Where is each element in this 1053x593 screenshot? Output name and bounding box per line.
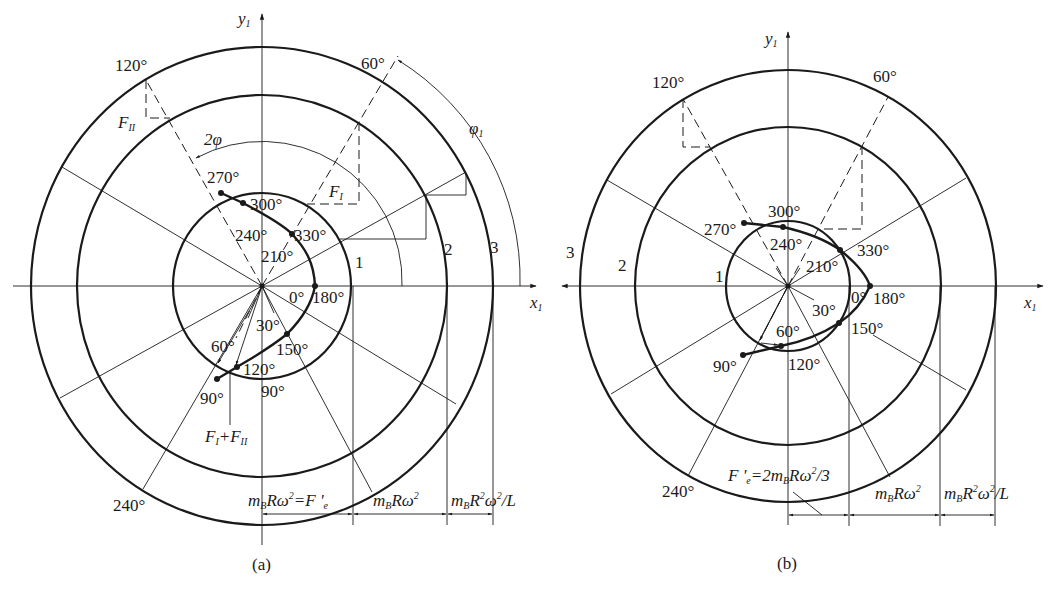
curve-label-300-a: 300° bbox=[250, 195, 282, 214]
radial-330-outer-b bbox=[873, 335, 966, 390]
curve-label-180-b: 180° bbox=[873, 289, 905, 308]
angle-label-240-b: 240° bbox=[662, 482, 694, 501]
curve-label-0-b: 0° bbox=[851, 288, 866, 307]
curve-label-150-a: 150° bbox=[276, 340, 308, 359]
x-axis-label-b: x1 bbox=[1023, 293, 1037, 313]
x-axis-label-a: x1 bbox=[529, 293, 543, 313]
construction-30-outer bbox=[426, 173, 466, 195]
curve-label-270-a: 270° bbox=[207, 168, 239, 187]
caption-b: (b) bbox=[777, 554, 797, 573]
curve-label-330-a: 330° bbox=[294, 226, 326, 245]
radial-150-b bbox=[607, 180, 788, 286]
phi1-label: φ1 bbox=[469, 119, 483, 139]
angle-label-60-b: 60° bbox=[873, 67, 897, 86]
two-phi-arc bbox=[196, 141, 402, 286]
angle-label-60-a: 60° bbox=[361, 54, 385, 73]
curve-label-300-b: 300° bbox=[768, 202, 800, 221]
dim-label-b-2: mBRω2 bbox=[875, 483, 921, 504]
radial-210-b bbox=[611, 286, 788, 394]
radial-240-a bbox=[143, 286, 262, 489]
figure-a: y1 x1 120° 60° 240° 1 2 3 FII FI FI+FII … bbox=[13, 9, 543, 574]
y-axis-label-a: y1 bbox=[236, 9, 251, 29]
F-II-label: FII bbox=[117, 113, 136, 133]
two-phi-label: 2φ bbox=[204, 130, 222, 149]
curve-label-30-a: 30° bbox=[256, 316, 280, 335]
curve-label-270-b: 270° bbox=[704, 220, 736, 239]
curve-label-30-b: 30° bbox=[812, 301, 836, 320]
y-axis-label-b: y1 bbox=[763, 29, 778, 49]
ring-label-2-b: 2 bbox=[618, 256, 627, 275]
ring-label-1-a: 1 bbox=[355, 253, 364, 272]
F-I-label: FI bbox=[328, 182, 343, 202]
dim-label-a-3: mBR2ω2/L bbox=[451, 490, 516, 511]
angle-label-120-b: 120° bbox=[652, 73, 684, 92]
caption-a: (a) bbox=[252, 555, 271, 574]
curve-label-210-b: 210° bbox=[806, 257, 838, 276]
figure-b: y1 x1 120° 60° 240° 1 2 3 270° 300° 240°… bbox=[562, 29, 1043, 573]
curve-label-90-right-a: 90° bbox=[261, 382, 285, 401]
curve-label-0-a: 0° bbox=[289, 288, 304, 307]
curve-label-240-a: 240° bbox=[235, 226, 267, 245]
curve-label-90-b: 90° bbox=[713, 357, 737, 376]
dim-leader-b bbox=[793, 492, 822, 515]
phi1-arc bbox=[398, 60, 520, 286]
curve-label-60-a: 60° bbox=[211, 337, 235, 356]
curve-label-330-b: 330° bbox=[857, 241, 889, 260]
curve-label-180-a: 180° bbox=[312, 288, 344, 307]
dim-label-a-2: mBRω2 bbox=[373, 490, 419, 511]
dashed-120-a bbox=[146, 80, 262, 286]
ring-label-3-a: 3 bbox=[490, 238, 499, 257]
angle-label-240-a: 240° bbox=[113, 496, 145, 515]
ring-label-1-b: 1 bbox=[715, 267, 724, 286]
radial-300-b bbox=[788, 286, 890, 477]
curve-label-150-b: 150° bbox=[851, 319, 883, 338]
curve-label-60-b: 60° bbox=[776, 322, 800, 341]
curve-label-90-left-a: 90° bbox=[200, 389, 224, 408]
curve-label-240-b: 240° bbox=[770, 235, 802, 254]
F-sum-label: FI+FII bbox=[204, 427, 248, 447]
polar-force-diagrams: y1 x1 120° 60° 240° 1 2 3 FII FI FI+FII … bbox=[0, 0, 1053, 593]
curve-label-210-a: 210° bbox=[261, 247, 293, 266]
dim-label-a-1: mBRω2=F 'e bbox=[248, 490, 329, 511]
angle-label-120-a: 120° bbox=[115, 56, 147, 75]
radial-30-a bbox=[262, 172, 466, 286]
dim-label-b-1: F 'e=2mBRω2/3 bbox=[727, 465, 830, 486]
dim-label-b-3: mBR2ω2/L bbox=[944, 483, 1009, 504]
curve-label-120-b: 120° bbox=[788, 355, 820, 374]
vector-horizontal-b bbox=[761, 343, 778, 345]
ring-label-2-a: 2 bbox=[444, 240, 453, 259]
curve-label-120-a: 120° bbox=[243, 360, 275, 379]
ring-label-3-b: 3 bbox=[566, 243, 575, 262]
